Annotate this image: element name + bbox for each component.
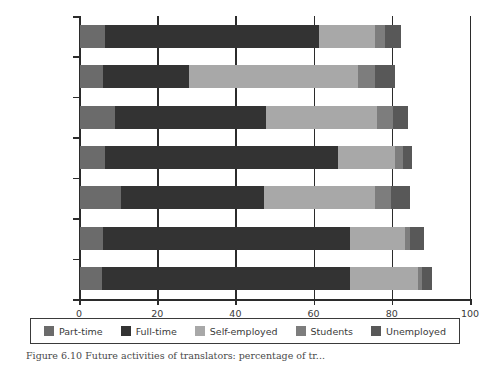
x-tick-80	[392, 299, 394, 305]
gridline-60	[314, 129, 316, 146]
gridline-60	[314, 290, 316, 299]
right-spine-line	[470, 16, 472, 299]
bar-segment-part-time	[80, 25, 105, 48]
y-tick-0	[73, 16, 79, 18]
bar-segment-full-time	[115, 106, 266, 129]
gridline-40	[235, 88, 237, 105]
y-tick-4	[73, 178, 79, 180]
bar-segment-full-time	[102, 267, 350, 290]
bar-segment-unemployed	[410, 227, 424, 250]
bar-segment-unemployed	[393, 106, 409, 129]
gridline-60	[314, 88, 316, 105]
bar-segment-students	[358, 65, 376, 88]
gridline-20	[157, 48, 159, 65]
bar-segment-part-time	[80, 106, 115, 129]
bar-segment-self-employed	[350, 227, 405, 250]
bar-row-poland	[80, 106, 408, 129]
gridline-20	[157, 16, 159, 25]
y-tick-2	[73, 97, 79, 99]
gridline-60	[314, 48, 316, 65]
bar-segment-self-employed	[350, 267, 418, 290]
bar-segment-full-time	[105, 25, 318, 48]
legend-swatch-icon	[371, 326, 381, 336]
legend-item-full-time: Full-time	[121, 326, 177, 337]
bar-segment-part-time	[80, 65, 103, 88]
gridline-20	[157, 209, 159, 226]
bar-segment-full-time	[105, 146, 338, 169]
bar-segment-part-time	[80, 267, 102, 290]
legend-label: Full-time	[136, 326, 177, 337]
bar-segment-unemployed	[375, 65, 395, 88]
gridline-20	[157, 129, 159, 146]
bar-row-australia	[80, 227, 424, 250]
gridline-80	[392, 48, 394, 65]
x-axis-line	[79, 299, 471, 301]
gridline-80	[392, 169, 394, 186]
gridline-60	[314, 209, 316, 226]
gridline-80	[392, 129, 394, 146]
gridline-20	[157, 169, 159, 186]
bar-row-canada	[80, 25, 401, 48]
gridline-40	[235, 169, 237, 186]
gridline-20	[157, 290, 159, 299]
bar-segment-self-employed	[338, 146, 395, 169]
bar-segment-full-time	[121, 186, 264, 209]
bar-segment-full-time	[103, 227, 349, 250]
x-tick-20	[157, 299, 159, 305]
y-tick-6	[73, 259, 79, 261]
x-tick-100	[470, 299, 472, 305]
y-tick-5	[73, 218, 79, 220]
gridline-40	[235, 129, 237, 146]
bar-segment-unemployed	[385, 25, 401, 48]
bar-segment-part-time	[80, 146, 105, 169]
x-tick-0	[79, 299, 81, 305]
gridline-40	[235, 48, 237, 65]
legend-item-self-employed: Self-employed	[195, 326, 278, 337]
legend-label: Self-employed	[210, 326, 278, 337]
legend-swatch-icon	[296, 326, 306, 336]
bar-row-romania	[80, 65, 395, 88]
gridline-40	[235, 209, 237, 226]
chart-legend: Part-timeFull-timeSelf-employedStudentsU…	[30, 318, 460, 344]
legend-swatch-icon	[121, 326, 131, 336]
bar-segment-unemployed	[422, 267, 432, 290]
gridline-60	[314, 250, 316, 267]
gridline-80	[392, 209, 394, 226]
bar-segment-self-employed	[264, 186, 375, 209]
plot-area: 020406080100 CanadaRomaniaPolandSouth Af…	[79, 16, 471, 299]
bar-segment-unemployed	[403, 146, 413, 169]
bar-segment-full-time	[103, 65, 189, 88]
legend-item-unemployed: Unemployed	[371, 326, 446, 337]
x-tick-60	[314, 299, 316, 305]
gridline-80	[392, 250, 394, 267]
gridline-40	[235, 16, 237, 25]
bar-segment-self-employed	[319, 25, 376, 48]
gridline-80	[392, 16, 394, 25]
gridline-40	[235, 290, 237, 299]
figure-container: 020406080100 CanadaRomaniaPolandSouth Af…	[0, 0, 490, 367]
legend-swatch-icon	[44, 326, 54, 336]
bar-segment-students	[375, 186, 391, 209]
gridline-80	[392, 290, 394, 299]
gridline-60	[314, 169, 316, 186]
bar-segment-students	[375, 25, 385, 48]
legend-label: Students	[311, 326, 353, 337]
bar-row-new-zealand	[80, 267, 432, 290]
bar-segment-students	[377, 106, 393, 129]
x-tick-label-100: 100	[461, 308, 479, 319]
bar-segment-unemployed	[391, 186, 411, 209]
gridline-60	[314, 16, 316, 25]
gridline-20	[157, 250, 159, 267]
bar-segment-part-time	[80, 227, 103, 250]
y-tick-1	[73, 56, 79, 58]
legend-item-students: Students	[296, 326, 353, 337]
legend-label: Part-time	[59, 326, 103, 337]
gridline-80	[392, 88, 394, 105]
bar-row-lithuania	[80, 186, 410, 209]
y-tick-3	[73, 137, 79, 139]
bar-segment-students	[395, 146, 403, 169]
legend-item-part-time: Part-time	[44, 326, 103, 337]
bar-row-south-africa	[80, 146, 412, 169]
figure-caption: Figure 6.10 Future activities of transla…	[26, 350, 466, 361]
bar-segment-part-time	[80, 186, 121, 209]
